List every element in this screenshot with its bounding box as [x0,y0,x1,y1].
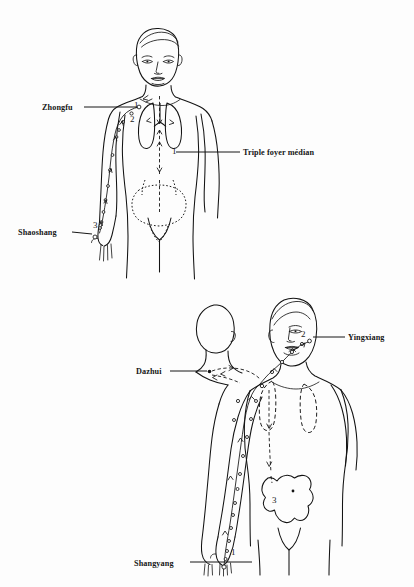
label-dazhui: Dazhui [136,367,162,376]
upper-head [133,28,182,86]
leader-shaoshang [72,232,92,234]
upper-abdomen-organ [132,180,186,242]
point-number-lu1: 1 [134,100,139,110]
diagram-page: Zhongfu Triple foyer médian Shaoshang 1 … [0,0,414,587]
label-shaoshang: Shaoshang [18,228,57,237]
label-yingxiang: Yingxiang [348,333,385,342]
lower-back-head [196,305,242,404]
lower-figure: Yingxiang Dazhui Shangyang 1 2 3 [134,298,385,576]
point-number-lu2: 2 [130,114,135,124]
point-number-lu11: 3 [93,220,98,230]
label-shangyang: Shangyang [134,559,174,568]
upper-annotations: Zhongfu Triple foyer médian Shaoshang 1 … [18,100,315,237]
point-number-li20: 2 [301,329,306,339]
upper-lungs [139,103,182,149]
upper-triple-foyer-line [157,96,162,212]
point-number-sanjiao-1: 1 [172,146,177,156]
label-zhongfu: Zhongfu [42,103,73,112]
upper-torso-outline [92,85,220,279]
point-number-li1: 1 [231,547,236,557]
meridian-diagram-canvas: Zhongfu Triple foyer médian Shaoshang 1 … [0,0,414,587]
upper-figure: Zhongfu Triple foyer médian Shaoshang 1 … [18,28,315,279]
label-triple-foyer-median: Triple foyer médian [243,148,315,157]
lower-li-meridian [208,339,312,569]
lower-main-body [201,298,357,576]
point-number-colon-3: 3 [272,495,277,505]
lower-lungs [259,381,316,433]
lower-colon [262,475,313,522]
